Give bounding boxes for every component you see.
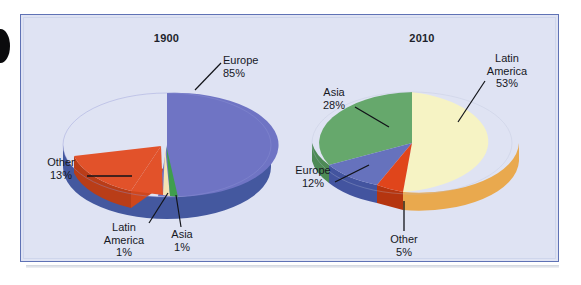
label-latin-america-1900-line1: Latin — [94, 221, 154, 234]
figure-panel: 1900 — [20, 14, 559, 262]
label-europe-1900: Europe 85% — [223, 54, 258, 79]
figure-root: 1900 — [0, 0, 581, 285]
label-asia-2010-value: 28% — [311, 99, 357, 112]
label-other-1900-value: 13% — [37, 169, 85, 182]
label-latin-america-2010: Latin America 53% — [477, 52, 537, 90]
label-asia-1900-name: Asia — [161, 228, 203, 241]
pie-2010-latin-top — [403, 92, 488, 192]
label-asia-1900-value: 1% — [161, 241, 203, 254]
label-other-1900-name: Other — [37, 156, 85, 169]
label-asia-2010-name: Asia — [311, 86, 357, 99]
panel-drop-shadow — [26, 265, 559, 268]
label-latin-america-1900: Latin America 1% — [94, 221, 154, 259]
pie-chart-2010: 2010 — [291, 15, 553, 263]
label-asia-1900: Asia 1% — [161, 228, 203, 253]
label-latin-america-1900-value: 1% — [94, 246, 154, 259]
label-other-2010: Other 5% — [381, 233, 427, 258]
label-other-1900: Other 13% — [37, 156, 85, 181]
label-latin-america-1900-line2: America — [94, 234, 154, 247]
label-latin-america-2010-line2: America — [477, 65, 537, 78]
leader-line-europe-1900 — [195, 63, 221, 90]
label-other-2010-name: Other — [381, 233, 427, 246]
label-europe-1900-value: 85% — [223, 67, 258, 80]
label-latin-america-2010-line1: Latin — [477, 52, 537, 65]
pie-chart-1900: 1900 — [39, 15, 294, 263]
label-europe-1900-name: Europe — [223, 54, 258, 67]
label-europe-2010-value: 12% — [287, 177, 339, 190]
label-europe-2010: Europe 12% — [287, 164, 339, 189]
pie-1900-graphic — [39, 15, 294, 263]
page-hole-punch-artifact — [0, 29, 10, 63]
label-latin-america-2010-value: 53% — [477, 77, 537, 90]
label-asia-2010: Asia 28% — [311, 86, 357, 111]
label-europe-2010-name: Europe — [287, 164, 339, 177]
label-other-2010-value: 5% — [381, 246, 427, 259]
